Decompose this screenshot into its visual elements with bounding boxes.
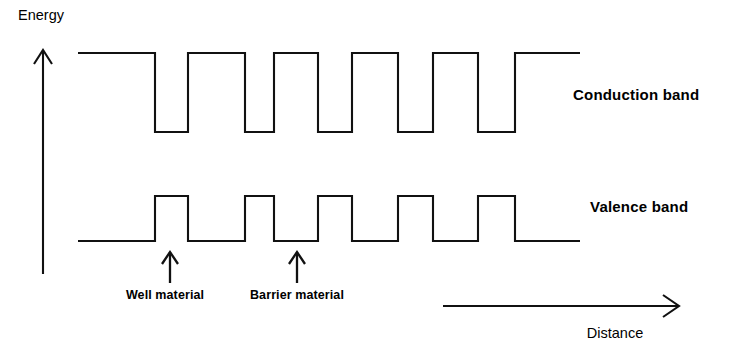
distance-axis-group: Distance: [443, 295, 679, 341]
band-diagram-figure: Energy Distance Conduction band Valence …: [0, 0, 738, 361]
band-diagram-canvas: Energy Distance Conduction band Valence …: [0, 0, 738, 361]
conduction-band-curve: [78, 53, 580, 132]
well-material-annotation: Well material: [126, 252, 204, 302]
valence-band-curve: [78, 196, 580, 241]
well-material-label: Well material: [126, 288, 204, 302]
conduction-band-group: Conduction band: [78, 53, 699, 132]
barrier-material-label: Barrier material: [250, 288, 344, 302]
barrier-material-annotation: Barrier material: [250, 252, 344, 302]
energy-axis-label: Energy: [18, 7, 65, 23]
energy-axis-group: Energy: [18, 7, 65, 274]
conduction-band-label: Conduction band: [573, 86, 699, 103]
distance-axis-label: Distance: [587, 325, 643, 341]
valence-band-group: Valence band: [78, 196, 688, 241]
valence-band-label: Valence band: [590, 198, 688, 215]
